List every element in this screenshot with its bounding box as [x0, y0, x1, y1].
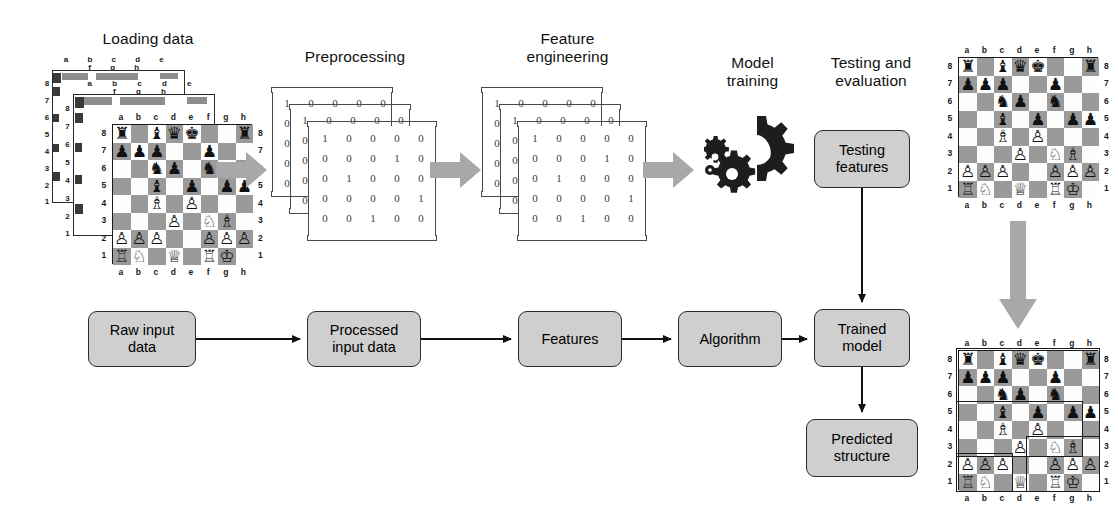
file-label-b: b: [976, 339, 994, 347]
file-label-e: e: [182, 113, 200, 121]
matrix-cell: 0: [337, 213, 361, 224]
square-e1: [183, 248, 201, 266]
file-label-c: c: [993, 201, 1011, 209]
file-label-c: c: [147, 113, 165, 121]
matrix-cell: 0: [523, 193, 547, 204]
piece-white-pawn-c2: ♙: [994, 163, 1012, 181]
stage-label-feature-engineering: Feature engineering: [480, 30, 655, 66]
rank-label: 4: [63, 177, 72, 185]
square-h4: [236, 195, 254, 213]
matrix-cell: 0: [337, 153, 361, 164]
rank-label-5: 5: [1102, 114, 1111, 122]
file-label-h: h: [1081, 46, 1099, 54]
preprocessing-matrix-front: 1000000010010000000100100: [308, 126, 436, 236]
rank-label-6: 6: [100, 164, 109, 172]
box-predicted-structure[interactable]: Predicted structure: [806, 419, 918, 477]
file-label-b: b: [976, 201, 994, 209]
box-algorithm[interactable]: Algorithm: [678, 311, 782, 367]
piece-black-knight-c6: ♞: [994, 93, 1012, 111]
matrix-cell: 0: [523, 173, 547, 184]
rank-label-8: 8: [1102, 355, 1111, 363]
file-label-g: g: [217, 268, 235, 276]
matrix-row: 01000: [313, 173, 433, 184]
piece-white-rook-a1: ♖: [113, 248, 131, 266]
rank-label-2: 2: [1102, 167, 1111, 175]
rank-label: 6: [43, 114, 51, 122]
matrix-cell: 0: [571, 193, 595, 204]
square-b4: [977, 128, 995, 146]
square-e3: [1029, 146, 1047, 164]
square-a6: [113, 160, 131, 178]
rank-label-1: 1: [256, 251, 265, 259]
matrix-cell: 0: [619, 213, 643, 224]
square-b8: [977, 58, 995, 76]
file-label-b: b: [130, 268, 148, 276]
file-label-a: a: [112, 268, 130, 276]
file-label-d: d: [165, 113, 183, 121]
matrix-cell: 0: [547, 133, 571, 144]
stage-label-testing-evaluation: Testing and evaluation: [806, 54, 936, 90]
rank-label-3: 3: [100, 216, 109, 224]
rank-label-2: 2: [256, 234, 265, 242]
file-label-a: a: [958, 494, 976, 502]
rank-label-7: 7: [1102, 79, 1111, 87]
file-label-c: c: [993, 339, 1011, 347]
matrix-cell: 0: [337, 133, 361, 144]
file-label-h: h: [1081, 494, 1099, 502]
piece-white-pawn-d3: ♙: [166, 213, 184, 231]
piece-white-king-g1: ♔: [1064, 181, 1082, 199]
piece-white-knight-b1: ♘: [977, 181, 995, 199]
matrix-cell: 1: [619, 193, 643, 204]
matrix-cell: 0: [361, 153, 385, 164]
piece-black-knight-c6: ♞: [148, 160, 166, 178]
matrix-row: 00010: [313, 153, 433, 164]
rank-label-5: 5: [946, 407, 955, 415]
square-b6: [977, 93, 995, 111]
file-label-e: e: [1028, 494, 1046, 502]
rank-label-2: 2: [1102, 460, 1111, 468]
box-testing-features[interactable]: Testing features: [814, 130, 910, 188]
matrix-cell: 0: [595, 193, 619, 204]
file-label-a: a: [958, 46, 976, 54]
diagram-canvas: Loading data Preprocessing Feature engin…: [0, 0, 1118, 514]
piece-white-pawn-g2: ♙: [218, 230, 236, 248]
square-e6: [183, 160, 201, 178]
matrix-cell: 0: [619, 173, 643, 184]
matrix-cell: 0: [313, 173, 337, 184]
file-label-g: g: [1063, 201, 1081, 209]
stage-label-loading-data: Loading data: [63, 30, 233, 48]
matrix-cell: 0: [385, 133, 409, 144]
matrix-cell: 0: [595, 133, 619, 144]
rank-label-4: 4: [946, 425, 955, 433]
rank-label-4: 4: [1102, 132, 1111, 140]
file-label-b: b: [130, 113, 148, 121]
piece-black-pawn-a7: ♟: [959, 76, 977, 94]
box-processed-input-data[interactable]: Processed input data: [307, 311, 421, 367]
square-e3: [183, 213, 201, 231]
block-arrow-down-icon: [998, 221, 1038, 331]
piece-white-pawn-h2: ♙: [1082, 163, 1100, 181]
piece-black-king-e8: ♚: [1029, 58, 1047, 76]
rank-label-3: 3: [256, 216, 265, 224]
file-label-f: f: [200, 113, 218, 121]
box-trained-model[interactable]: Trained model: [814, 309, 910, 367]
square-e2: [183, 230, 201, 248]
piece-black-knight-f6: ♞: [1047, 93, 1065, 111]
piece-black-pawn-d6: ♟: [166, 160, 184, 178]
square-e7: [183, 143, 201, 161]
box-features[interactable]: Features: [518, 311, 622, 367]
matrix-row: 10000: [523, 133, 643, 144]
rank-label: 7: [43, 97, 51, 105]
rank-label-3: 3: [946, 149, 955, 157]
file-label-a: a: [112, 113, 130, 121]
square-g6: [1064, 93, 1082, 111]
matrix-cell: 0: [571, 133, 595, 144]
rank-label-6: 6: [946, 390, 955, 398]
rank-label: 5: [63, 159, 72, 167]
file-label-d: d: [1011, 201, 1029, 209]
box-raw-input-data[interactable]: Raw input data: [88, 311, 196, 367]
testing-board: abcdefghabcdefgh8765432187654321♜♝♛♚♜♟♟♟…: [944, 44, 1104, 224]
piece-black-pawn-a7: ♟: [113, 143, 131, 161]
piece-white-pawn-g2: ♙: [1064, 163, 1082, 181]
matrix-row: 00001: [523, 193, 643, 204]
